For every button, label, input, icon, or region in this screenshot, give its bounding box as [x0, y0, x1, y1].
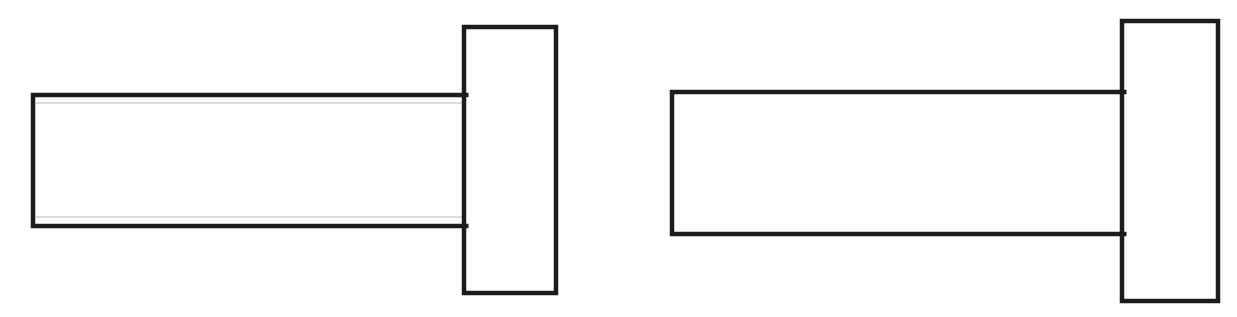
- left-shaft-fill: [33, 95, 466, 226]
- drawing-svg: [0, 0, 1237, 317]
- right-shaft-fill: [672, 92, 1124, 234]
- left-head-fill: [464, 27, 556, 293]
- right-assembly: [672, 21, 1218, 301]
- technical-drawing-canvas: [0, 0, 1237, 317]
- left-assembly: [33, 27, 556, 293]
- right-head-fill: [1122, 21, 1218, 301]
